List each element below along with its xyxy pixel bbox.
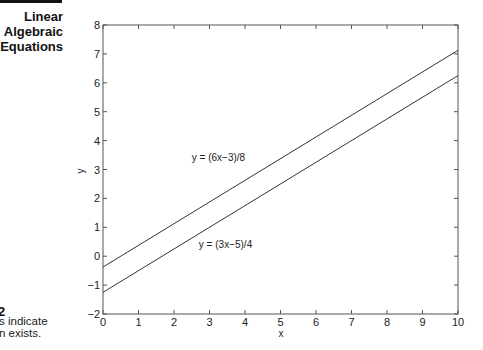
y-tick-label: 2 <box>94 192 100 204</box>
y-tick-label: −1 <box>87 279 100 291</box>
series-line <box>103 50 458 267</box>
y-tick-label: −2 <box>87 308 100 320</box>
y-tick-label: 5 <box>94 106 100 118</box>
plot-series <box>103 50 458 292</box>
x-tick-label: 6 <box>313 316 319 328</box>
equation-annotation: y = (3x−5)/4 <box>199 239 253 250</box>
y-tick-label: 0 <box>94 250 100 262</box>
equation-annotation: y = (6x−3)/8 <box>192 152 246 163</box>
x-tick-label: 9 <box>419 316 425 328</box>
x-tick-label: 10 <box>452 316 464 328</box>
y-tick-label: 3 <box>94 164 100 176</box>
series-line <box>103 76 458 293</box>
x-tick-label: 0 <box>100 316 106 328</box>
x-tick-label: 5 <box>277 316 283 328</box>
x-tick-label: 4 <box>242 316 248 328</box>
y-tick-label: 8 <box>94 19 100 31</box>
x-tick-label: 1 <box>135 316 141 328</box>
y-tick-label: 6 <box>94 77 100 89</box>
y-tick-label: 1 <box>94 221 100 233</box>
plot-annotations: y = (6x−3)/8y = (3x−5)/4 <box>192 152 253 250</box>
x-tick-label: 7 <box>348 316 354 328</box>
x-tick-label: 2 <box>171 316 177 328</box>
x-axis-label: x <box>279 328 284 339</box>
x-tick-label: 8 <box>384 316 390 328</box>
x-tick-label: 3 <box>206 316 212 328</box>
line-chart: 012345678910−2−1012345678 y = (6x−3)/8y … <box>0 0 483 350</box>
y-tick-label: 4 <box>94 135 100 147</box>
y-axis-label: y <box>75 169 86 174</box>
plot-axes: 012345678910−2−1012345678 <box>87 19 464 328</box>
y-tick-label: 7 <box>94 48 100 60</box>
plot-frame <box>103 25 458 314</box>
